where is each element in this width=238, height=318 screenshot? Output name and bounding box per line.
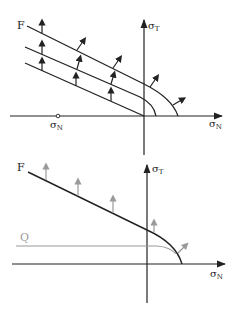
normal-arrow-icon [77,58,80,69]
normal-arrow-icon [178,245,186,253]
normal-arrow-icon [113,58,120,68]
normal-arrow-icon [77,40,84,50]
normal-arrow-icon [173,99,183,105]
bottom-diagram: F Q σT σN [12,161,225,303]
sigma-n-point [56,114,60,118]
top-diagram: F σT σN σN [10,19,222,155]
bottom-curve-q-label: Q [20,231,29,244]
top-curve-label: F [17,19,25,32]
bottom-curve-q [16,246,176,254]
normal-arrow-icon [111,74,114,84]
bottom-curve-f-label: F [17,161,25,174]
top-x-axis-label: σN [209,118,222,131]
bottom-y-axis-label: σT [152,163,164,176]
bottom-x-axis-label: σN [210,268,223,281]
top-y-axis-label: σT [148,20,160,33]
top-point-label: σN [50,119,63,132]
top-yield-curve-outer [27,26,178,116]
normal-arrow-icon [150,77,157,87]
bottom-yield-curve-f [28,172,182,264]
diagram-canvas: F σT σN σN F Q σT σN [0,0,238,318]
top-yield-curve-inner [25,63,144,116]
